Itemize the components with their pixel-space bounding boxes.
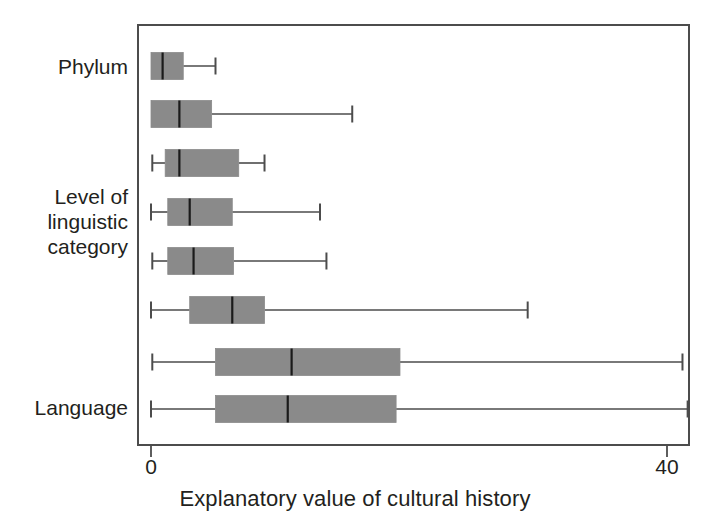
box-3: [165, 150, 239, 177]
x-tick-label-40: 40: [637, 455, 697, 479]
x-tick-label-0: 0: [121, 455, 181, 479]
x-axis-title: Explanatory value of cultural history: [0, 486, 710, 512]
box-row-2: [151, 101, 352, 128]
box-row-8: [151, 396, 688, 423]
box-6: [190, 297, 265, 324]
boxes-group: [151, 53, 688, 423]
box-8: [216, 396, 397, 423]
box-row-5: [152, 248, 326, 275]
boxplot-canvas: [0, 0, 710, 531]
box-row-4: [151, 199, 320, 226]
box-row-3: [152, 150, 264, 177]
y-category-label-language: Language: [0, 395, 128, 420]
box-5: [168, 248, 234, 275]
box-1: [151, 53, 183, 80]
x-axis-ticks: [151, 446, 667, 457]
box-7: [216, 349, 400, 376]
box-row-7: [152, 349, 682, 376]
y-category-label-level-line2: linguistic: [0, 209, 128, 234]
box-row-1: [151, 53, 216, 80]
boxplot-figure: Phylum Level of linguistic category Lang…: [0, 0, 710, 531]
box-4: [168, 199, 233, 226]
y-category-label-level-line1: Level of: [0, 184, 128, 209]
y-category-label-level-line3: category: [0, 234, 128, 259]
box-2: [151, 101, 212, 128]
y-category-label-phylum: Phylum: [0, 54, 128, 79]
box-row-6: [151, 297, 528, 324]
